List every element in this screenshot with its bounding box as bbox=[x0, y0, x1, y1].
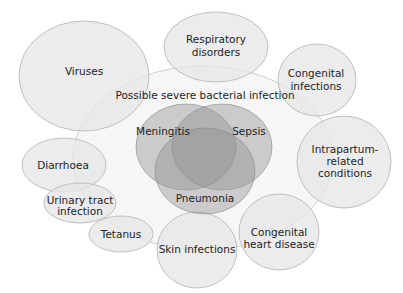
congenital-infections-label-line2: infections bbox=[290, 80, 341, 92]
heart-disease-label-line1: Congenital bbox=[251, 226, 308, 238]
respiratory-label-line1: Respiratory bbox=[186, 33, 246, 45]
diarrhoea-label: Diarrhoea bbox=[37, 159, 89, 171]
skin-infections-label: Skin infections bbox=[159, 243, 236, 255]
intrapartum-label-line2: related bbox=[326, 155, 363, 167]
congenital-infections-label-line1: Congenital bbox=[288, 67, 345, 79]
urinary-label-line2: infection bbox=[57, 205, 103, 217]
meningitis-label: Meningitis bbox=[136, 125, 190, 137]
tetanus-label: Tetanus bbox=[100, 228, 141, 240]
intrapartum-label-line3: conditions bbox=[318, 167, 372, 179]
heart-disease-label-line2: heart disease bbox=[243, 238, 314, 250]
venn-diagram: Possible severe bacterial infection Meni… bbox=[0, 0, 403, 293]
respiratory-label-line2: disorders bbox=[192, 46, 241, 58]
intrapartum-label-line1: Intrapartum- bbox=[312, 143, 379, 155]
sepsis-label: Sepsis bbox=[232, 125, 266, 137]
psbi-label: Possible severe bacterial infection bbox=[115, 89, 294, 101]
viruses-label: Viruses bbox=[65, 65, 103, 77]
pneumonia-label: Pneumonia bbox=[176, 192, 235, 204]
